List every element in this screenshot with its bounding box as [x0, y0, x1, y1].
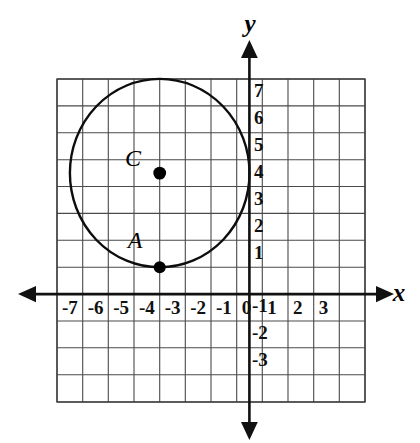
y-tick-label: 5 [254, 134, 264, 155]
x-axis-arrow-right-icon [376, 286, 394, 302]
x-tick-label: -4 [139, 297, 155, 318]
x-tick-label-origin: 0 [242, 297, 252, 318]
x-axis-arrow-left-icon [18, 286, 36, 302]
y-tick-label: 2 [254, 215, 264, 236]
x-tick-label: -1 [216, 297, 232, 318]
y-axis-arrow-down-icon [241, 422, 258, 440]
point-label-a: A [126, 227, 143, 253]
x-tick-label: 1 [267, 297, 277, 318]
x-tick-label: -7 [62, 297, 78, 318]
x-tick-label: 2 [293, 297, 303, 318]
x-tick-label: -5 [113, 297, 129, 318]
x-axis-label: x [392, 279, 406, 306]
x-tick-label: -3 [165, 297, 181, 318]
point-marker-a [154, 261, 166, 273]
point-label-c: C [125, 145, 142, 171]
coordinate-plane-svg: x y -7 -6 -5 -4 -3 -2 -1 0 1 2 3 7 6 5 4… [0, 0, 420, 443]
y-axis-label: y [241, 10, 256, 37]
y-tick-label: 7 [254, 80, 264, 101]
y-tick-label: -2 [252, 322, 268, 343]
grid-lines [57, 79, 365, 402]
y-axis-arrow-up-icon [241, 40, 258, 58]
y-tick-label: 1 [254, 242, 264, 263]
y-axis-tick-labels: 7 6 5 4 3 2 1 -1 -2 -3 [252, 80, 268, 370]
y-tick-label: -3 [252, 349, 268, 370]
y-tick-label: -1 [252, 295, 268, 316]
coordinate-plane-figure: x y -7 -6 -5 -4 -3 -2 -1 0 1 2 3 7 6 5 4… [0, 0, 420, 443]
point-marker-c [153, 167, 166, 180]
y-tick-label: 4 [254, 161, 264, 182]
y-tick-label: 3 [254, 188, 264, 209]
x-tick-label: -2 [190, 297, 206, 318]
x-tick-label: -6 [88, 297, 104, 318]
x-tick-label: 3 [319, 297, 329, 318]
y-tick-label: 6 [254, 107, 264, 128]
